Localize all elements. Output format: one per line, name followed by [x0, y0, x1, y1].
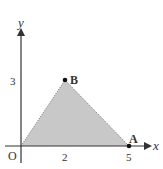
point-A-label: A [129, 132, 138, 146]
origin-label: O [8, 149, 17, 163]
coordinate-diagram: y x O 3 2 5 B A [0, 0, 163, 169]
x-tick-2: 2 [62, 151, 68, 163]
x-tick-5: 5 [126, 151, 132, 163]
point-B [63, 78, 68, 83]
point-B-label: B [70, 73, 78, 87]
y-axis-label: y [16, 15, 24, 30]
shaded-triangle-region [21, 80, 129, 146]
y-tick-3: 3 [10, 75, 16, 87]
x-axis-label: x [152, 138, 159, 153]
